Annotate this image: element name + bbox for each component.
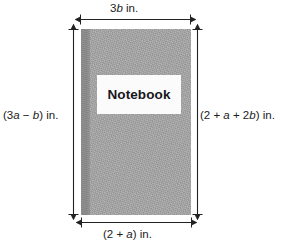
left-dimension [69, 30, 79, 215]
bottom-dimension [82, 218, 192, 228]
top-dimension-label: 3b in. [110, 2, 138, 14]
bottom-dimension-label: (2 + a) in. [103, 228, 152, 240]
notebook-title-text: Notebook [107, 87, 170, 102]
notebook-cover: Notebook [81, 29, 191, 215]
notebook-dimension-diagram: Notebook [0, 0, 288, 248]
notebook-spine [81, 29, 90, 215]
left-dimension-label: (3a − b) in. [3, 109, 58, 121]
right-dimension-label: (2 + a + 2b) in. [200, 109, 275, 121]
top-dimension [81, 15, 191, 25]
right-dimension [193, 30, 203, 215]
notebook-title-label: Notebook [97, 75, 181, 114]
